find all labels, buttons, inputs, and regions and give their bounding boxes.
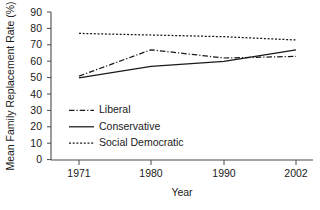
y-tick-label: 70 xyxy=(30,38,42,50)
y-axis-title: Mean Family Replacement Rate (%) xyxy=(4,1,16,170)
x-tick-label: 2002 xyxy=(284,167,308,179)
series-layer xyxy=(79,33,296,77)
y-tick-label: 20 xyxy=(30,120,42,132)
legend-label-liberal: Liberal xyxy=(99,103,131,115)
x-tick-marks xyxy=(79,160,296,165)
y-tick-label: 60 xyxy=(30,55,42,67)
y-tick-marks xyxy=(47,12,51,160)
y-tick-label: 40 xyxy=(30,88,42,100)
x-axis-ticks: 1971 1980 1990 2002 xyxy=(67,167,308,179)
y-tick-label: 90 xyxy=(30,6,42,18)
y-tick-label: 50 xyxy=(30,71,42,83)
line-chart: Mean Family Replacement Rate (%) 90 80 7… xyxy=(0,0,320,210)
y-tick-label: 30 xyxy=(30,104,42,116)
legend-label-social-democratic: Social Democratic xyxy=(99,136,184,148)
legend: Liberal Conservative Social Democratic xyxy=(69,103,184,148)
x-tick-label: 1980 xyxy=(139,167,163,179)
x-axis-title: Year xyxy=(171,186,193,198)
legend-label-conservative: Conservative xyxy=(99,120,160,132)
y-tick-label: 80 xyxy=(30,22,42,34)
x-tick-label: 1971 xyxy=(67,167,91,179)
y-tick-label: 10 xyxy=(30,137,42,149)
y-tick-label: 0 xyxy=(36,153,42,165)
y-axis-ticks: 90 80 70 60 50 40 30 20 10 0 xyxy=(30,6,42,166)
x-tick-label: 1990 xyxy=(212,167,236,179)
chart-container: Mean Family Replacement Rate (%) 90 80 7… xyxy=(0,0,320,210)
series-line-social-democratic xyxy=(79,33,296,40)
